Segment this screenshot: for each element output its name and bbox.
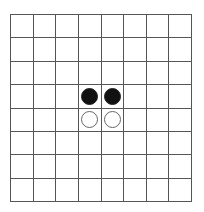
board-cell-r4-c7[interactable] — [169, 109, 192, 132]
board-cell-r7-c3[interactable] — [79, 179, 102, 202]
board-cell-r5-c4[interactable] — [102, 132, 125, 155]
board-cell-r4-c5[interactable] — [124, 109, 147, 132]
board-cell-r4-c6[interactable] — [147, 109, 170, 132]
game-board — [10, 14, 192, 202]
board-cell-r0-c6[interactable] — [147, 15, 170, 38]
white-piece-icon — [104, 111, 121, 128]
board-cell-r7-c1[interactable] — [34, 179, 57, 202]
board-cell-r3-c2[interactable] — [56, 85, 79, 108]
board-cell-r0-c1[interactable] — [34, 15, 57, 38]
board-cell-r1-c1[interactable] — [34, 38, 57, 61]
board-cell-r3-c4[interactable] — [102, 85, 125, 108]
board-cell-r4-c1[interactable] — [34, 109, 57, 132]
board-cell-r5-c3[interactable] — [79, 132, 102, 155]
board-cell-r5-c1[interactable] — [34, 132, 57, 155]
board-cell-r6-c2[interactable] — [56, 155, 79, 178]
board-cell-r1-c7[interactable] — [169, 38, 192, 61]
board-cell-r0-c3[interactable] — [79, 15, 102, 38]
board-cell-r1-c4[interactable] — [102, 38, 125, 61]
white-piece-icon — [81, 111, 98, 128]
board-cell-r2-c3[interactable] — [79, 62, 102, 85]
board-cell-r6-c5[interactable] — [124, 155, 147, 178]
board-cell-r1-c2[interactable] — [56, 38, 79, 61]
board-cell-r6-c4[interactable] — [102, 155, 125, 178]
board-cell-r7-c5[interactable] — [124, 179, 147, 202]
board-cell-r2-c0[interactable] — [11, 62, 34, 85]
board-cell-r6-c1[interactable] — [34, 155, 57, 178]
board-cell-r4-c3[interactable] — [79, 109, 102, 132]
board-cell-r3-c3[interactable] — [79, 85, 102, 108]
board-cell-r2-c6[interactable] — [147, 62, 170, 85]
board-cell-r3-c5[interactable] — [124, 85, 147, 108]
board-cell-r3-c1[interactable] — [34, 85, 57, 108]
board-cell-r0-c7[interactable] — [169, 15, 192, 38]
board-cell-r3-c7[interactable] — [169, 85, 192, 108]
black-piece-icon — [104, 88, 121, 105]
board-cell-r7-c2[interactable] — [56, 179, 79, 202]
board-cell-r1-c6[interactable] — [147, 38, 170, 61]
board-cell-r4-c0[interactable] — [11, 109, 34, 132]
board-cell-r5-c0[interactable] — [11, 132, 34, 155]
board-cell-r2-c2[interactable] — [56, 62, 79, 85]
board-cell-r1-c0[interactable] — [11, 38, 34, 61]
board-cell-r7-c0[interactable] — [11, 179, 34, 202]
board-cell-r6-c3[interactable] — [79, 155, 102, 178]
board-cell-r0-c4[interactable] — [102, 15, 125, 38]
board-cell-r6-c7[interactable] — [169, 155, 192, 178]
board-cell-r5-c2[interactable] — [56, 132, 79, 155]
board-cell-r0-c0[interactable] — [11, 15, 34, 38]
board-cell-r5-c7[interactable] — [169, 132, 192, 155]
black-piece-icon — [81, 88, 98, 105]
board-cell-r0-c5[interactable] — [124, 15, 147, 38]
board-cell-r4-c4[interactable] — [102, 109, 125, 132]
board-cell-r1-c3[interactable] — [79, 38, 102, 61]
board-cell-r3-c6[interactable] — [147, 85, 170, 108]
board-cell-r2-c4[interactable] — [102, 62, 125, 85]
board-cell-r4-c2[interactable] — [56, 109, 79, 132]
board-cell-r2-c1[interactable] — [34, 62, 57, 85]
board-cell-r6-c0[interactable] — [11, 155, 34, 178]
board-cell-r0-c2[interactable] — [56, 15, 79, 38]
board-cell-r5-c6[interactable] — [147, 132, 170, 155]
board-cell-r3-c0[interactable] — [11, 85, 34, 108]
board-cell-r7-c6[interactable] — [147, 179, 170, 202]
board-cell-r2-c7[interactable] — [169, 62, 192, 85]
board-cell-r1-c5[interactable] — [124, 38, 147, 61]
board-cell-r2-c5[interactable] — [124, 62, 147, 85]
board-cell-r7-c4[interactable] — [102, 179, 125, 202]
board-cell-r5-c5[interactable] — [124, 132, 147, 155]
board-cell-r6-c6[interactable] — [147, 155, 170, 178]
board-cell-r7-c7[interactable] — [169, 179, 192, 202]
